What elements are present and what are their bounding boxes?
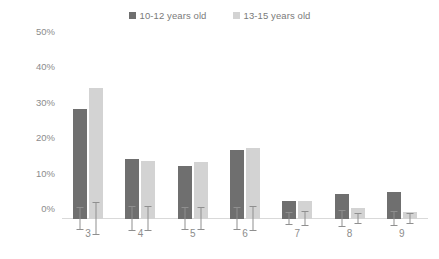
legend-swatch-icon bbox=[233, 12, 240, 19]
error-bar-cap-top bbox=[233, 207, 240, 208]
error-bar-cap-bottom bbox=[197, 229, 204, 230]
bar[interactable] bbox=[335, 194, 349, 219]
bar[interactable] bbox=[387, 192, 401, 219]
error-bar bbox=[252, 207, 253, 232]
error-bar bbox=[96, 203, 97, 235]
error-bar-cap-bottom bbox=[406, 223, 413, 224]
bar-column[interactable] bbox=[89, 42, 103, 219]
bar[interactable] bbox=[230, 150, 244, 219]
bar[interactable] bbox=[89, 88, 103, 219]
bar-column[interactable] bbox=[282, 42, 296, 219]
error-bar-cap-top bbox=[286, 212, 293, 213]
y-axis-tick-label: 30% bbox=[36, 96, 55, 107]
error-bar-cap-bottom bbox=[93, 234, 100, 235]
bar-group: 7 bbox=[271, 42, 323, 219]
error-bar-cap-top bbox=[129, 206, 136, 207]
bar[interactable] bbox=[141, 161, 155, 219]
error-bar-cap-top bbox=[354, 213, 361, 214]
error-bar-cap-top bbox=[93, 202, 100, 203]
error-bar-cap-bottom bbox=[354, 223, 361, 224]
legend-label: 13-15 years old bbox=[244, 10, 311, 21]
error-bar-cap-bottom bbox=[145, 230, 152, 231]
plot-area: 0%10%20%30%40%50%3456789 bbox=[62, 42, 428, 219]
bar-column[interactable] bbox=[194, 42, 208, 219]
legend-entry[interactable]: 10-12 years old bbox=[129, 10, 207, 21]
error-bar-cap-bottom bbox=[233, 229, 240, 230]
y-axis-tick-label: 50% bbox=[36, 26, 55, 37]
x-axis-tick-label: 4 bbox=[138, 228, 144, 239]
error-bar bbox=[148, 207, 149, 232]
y-axis-tick-label: 40% bbox=[36, 61, 55, 72]
bar-group: 8 bbox=[323, 42, 375, 219]
y-axis-tick-label: 10% bbox=[36, 167, 55, 178]
x-axis-tick-label: 9 bbox=[399, 228, 405, 239]
bar-column[interactable] bbox=[178, 42, 192, 219]
bar-group: 5 bbox=[167, 42, 219, 219]
bar-column[interactable] bbox=[351, 42, 365, 219]
bar[interactable] bbox=[351, 208, 365, 219]
error-bar bbox=[184, 208, 185, 229]
error-bar bbox=[132, 207, 133, 232]
bar-group: 4 bbox=[114, 42, 166, 219]
bar-column[interactable] bbox=[73, 42, 87, 219]
error-bar-cap-bottom bbox=[302, 225, 309, 226]
x-axis-tick-label: 3 bbox=[85, 228, 91, 239]
error-bar-cap-bottom bbox=[390, 225, 397, 226]
error-bar bbox=[80, 208, 81, 229]
x-axis-tick-label: 8 bbox=[347, 228, 353, 239]
error-bar-cap-bottom bbox=[181, 229, 188, 230]
error-bar-cap-top bbox=[302, 211, 309, 212]
bar-column[interactable] bbox=[403, 42, 417, 219]
error-bar-cap-bottom bbox=[249, 230, 256, 231]
error-bar-cap-bottom bbox=[129, 230, 136, 231]
bar-group: 6 bbox=[219, 42, 271, 219]
error-bar bbox=[393, 212, 394, 226]
bar[interactable] bbox=[298, 201, 312, 219]
error-bar-cap-top bbox=[406, 213, 413, 214]
error-bar-cap-bottom bbox=[77, 229, 84, 230]
bar[interactable] bbox=[178, 166, 192, 219]
x-axis-tick-label: 7 bbox=[295, 228, 301, 239]
error-bar-cap-top bbox=[77, 207, 84, 208]
error-bar bbox=[200, 208, 201, 229]
error-bar-cap-top bbox=[249, 206, 256, 207]
error-bar bbox=[341, 211, 342, 227]
bar[interactable] bbox=[282, 201, 296, 219]
bar-column[interactable] bbox=[246, 42, 260, 219]
bar[interactable] bbox=[403, 212, 417, 219]
error-bar-cap-bottom bbox=[338, 226, 345, 227]
error-bar-cap-bottom bbox=[286, 224, 293, 225]
legend-entry[interactable]: 13-15 years old bbox=[233, 10, 311, 21]
error-bar-cap-top bbox=[338, 210, 345, 211]
error-bar bbox=[236, 208, 237, 229]
bar[interactable] bbox=[125, 159, 139, 219]
error-bar-cap-top bbox=[197, 207, 204, 208]
bar[interactable] bbox=[73, 109, 87, 219]
bar-column[interactable] bbox=[230, 42, 244, 219]
bar-column[interactable] bbox=[387, 42, 401, 219]
bar-column[interactable] bbox=[335, 42, 349, 219]
y-axis-tick-label: 20% bbox=[36, 132, 55, 143]
bar-group: 9 bbox=[376, 42, 428, 219]
y-axis-tick-label: 0% bbox=[41, 203, 55, 214]
chart-legend: 10-12 years old13-15 years old bbox=[0, 10, 439, 21]
error-bar-cap-top bbox=[181, 207, 188, 208]
x-axis-tick-label: 6 bbox=[242, 228, 248, 239]
bar-column[interactable] bbox=[125, 42, 139, 219]
bar[interactable] bbox=[246, 148, 260, 219]
bar-group: 3 bbox=[62, 42, 114, 219]
bar-column[interactable] bbox=[141, 42, 155, 219]
error-bar-cap-top bbox=[145, 206, 152, 207]
bar[interactable] bbox=[194, 162, 208, 219]
bar-column[interactable] bbox=[298, 42, 312, 219]
legend-swatch-icon bbox=[129, 12, 136, 19]
x-axis-tick-label: 5 bbox=[190, 228, 196, 239]
legend-label: 10-12 years old bbox=[140, 10, 207, 21]
error-bar-cap-top bbox=[390, 211, 397, 212]
bar-chart: 10-12 years old13-15 years old 0%10%20%3… bbox=[0, 0, 439, 259]
error-bar bbox=[305, 212, 306, 226]
